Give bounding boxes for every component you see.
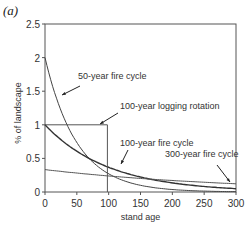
x-tick-label: 300 [228, 198, 245, 209]
y-tick-label: 0.5 [26, 153, 40, 164]
y-tick-label: 1.5 [26, 86, 40, 97]
x-axis-label: stand age [121, 212, 161, 222]
y-tick-label: 1 [34, 120, 40, 131]
y-tick-label: 2 [34, 53, 40, 64]
x-tick-label: 50 [71, 198, 83, 209]
annotation-50-year: 50-year fire cycle [78, 71, 147, 81]
annotation-logging: 100-year logging rotation [120, 101, 220, 111]
line-chart: 05010015020025030000.511.522.5stand age%… [0, 0, 251, 233]
y-axis-label: % of landscape [13, 82, 23, 144]
x-tick-label: 100 [100, 198, 117, 209]
x-tick-label: 150 [132, 198, 149, 209]
annotation-100-year: 100-year fire cycle [120, 138, 194, 148]
y-tick-label: 0 [34, 187, 40, 198]
x-tick-label: 0 [42, 198, 48, 209]
y-tick-label: 2.5 [26, 19, 40, 30]
x-tick-label: 250 [196, 198, 213, 209]
x-tick-label: 200 [164, 198, 181, 209]
annotation-300-year: 300-year fire cycle [165, 149, 239, 159]
